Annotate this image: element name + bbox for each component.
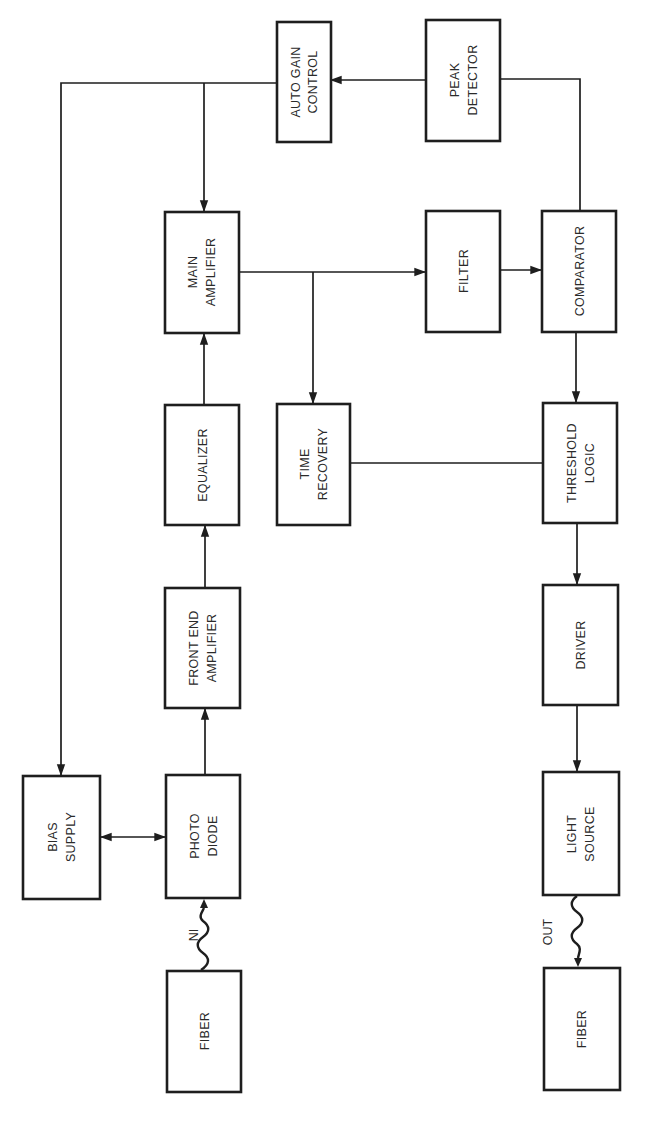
svg-text:FILTER: FILTER <box>457 249 471 293</box>
svg-text:PHOTO: PHOTO <box>188 813 202 859</box>
block-bias-supply: BIAS SUPPLY <box>23 776 100 899</box>
block-main-amplifier: MAIN AMPLIFIER <box>165 212 239 333</box>
svg-text:DIODE: DIODE <box>206 815 220 856</box>
input-arrowhead <box>200 899 208 908</box>
svg-text:TIME: TIME <box>298 448 312 479</box>
block-fiber-in: FIBER <box>167 971 241 1092</box>
block-photo-diode: PHOTO DIODE <box>166 775 240 898</box>
block-driver: DRIVER <box>543 585 618 705</box>
block-time-recovery: TIME RECOVERY <box>277 404 350 525</box>
svg-text:DETECTOR: DETECTOR <box>466 45 480 116</box>
svg-text:LOGIC: LOGIC <box>583 443 597 483</box>
svg-text:COMPARATOR: COMPARATOR <box>573 226 587 317</box>
svg-text:PEAK: PEAK <box>448 62 462 97</box>
block-filter: FILTER <box>426 211 500 332</box>
svg-text:CONTROL: CONTROL <box>306 50 320 113</box>
block-light-source: LIGHT SOURCE <box>543 772 619 895</box>
block-comparator: COMPARATOR <box>542 211 616 332</box>
block-fiber-out: FIBER <box>544 968 620 1090</box>
output-optical-wavy-line <box>572 896 583 958</box>
in-label: IN <box>186 929 200 942</box>
block-peak-detector: PEAK DETECTOR <box>426 20 500 141</box>
svg-text:FIBER: FIBER <box>198 1012 212 1050</box>
svg-text:BIAS: BIAS <box>46 822 60 852</box>
block-auto-gain-control: AUTO GAIN CONTROL <box>277 22 331 142</box>
svg-text:AMPLIFIER: AMPLIFIER <box>205 614 219 683</box>
svg-text:DRIVER: DRIVER <box>574 620 588 669</box>
svg-text:FRONT END: FRONT END <box>187 610 201 685</box>
svg-text:MAIN: MAIN <box>186 256 200 288</box>
block-threshold-logic: THRESHOLD LOGIC <box>543 403 617 523</box>
out-label: OUT <box>541 918 555 945</box>
block-equalizer: EQUALIZER <box>165 405 239 525</box>
block-front-end-amplifier: FRONT END AMPLIFIER <box>165 588 240 708</box>
svg-text:SOURCE: SOURCE <box>583 806 597 861</box>
svg-text:LIGHT: LIGHT <box>565 815 579 853</box>
svg-text:THRESHOLD: THRESHOLD <box>565 423 579 503</box>
svg-text:FIBER: FIBER <box>575 1010 589 1048</box>
svg-text:AMPLIFIER: AMPLIFIER <box>204 238 218 307</box>
block-diagram: IN OUT AUTO GAIN CONTROL PEAK DETECTOR M… <box>0 0 653 1125</box>
svg-text:EQUALIZER: EQUALIZER <box>196 428 210 502</box>
svg-text:AUTO GAIN: AUTO GAIN <box>289 46 303 117</box>
svg-text:SUPPLY: SUPPLY <box>64 812 78 863</box>
comparator-to-peak-detector-wire <box>501 79 580 211</box>
svg-text:RECOVERY: RECOVERY <box>316 427 330 500</box>
output-arrowhead <box>574 958 582 967</box>
